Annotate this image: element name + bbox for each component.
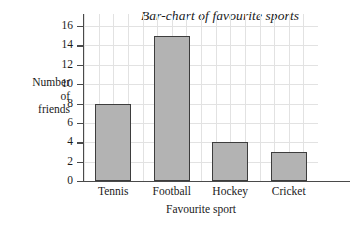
x-axis-line: [84, 181, 350, 182]
y-axis-tick-label: 4: [33, 136, 73, 148]
y-axis-tick-label: 14: [33, 39, 73, 51]
y-axis-line: [83, 14, 84, 182]
y-axis-tick: [77, 84, 84, 85]
y-axis-tick: [77, 104, 84, 105]
bar-football: [154, 36, 190, 181]
y-axis-tick-label: 0: [33, 175, 73, 187]
x-axis-tick-label: Football: [143, 185, 202, 197]
y-axis-tick: [77, 162, 84, 163]
y-axis-tick-label: 16: [33, 20, 73, 32]
x-axis-title: Favourite sport: [84, 203, 318, 215]
gridline-vertical: [260, 14, 261, 181]
y-axis-tick: [77, 26, 84, 27]
gridline-vertical: [201, 14, 202, 181]
y-axis-tick: [77, 181, 84, 182]
bar-cricket: [271, 152, 307, 181]
y-axis-tick: [77, 45, 84, 46]
bar-hockey: [212, 142, 248, 181]
bar-tennis: [95, 104, 131, 182]
y-axis-tick: [77, 142, 84, 143]
y-axis-tick-label: 12: [33, 59, 73, 71]
y-axis-tick-label: 2: [33, 156, 73, 168]
y-axis-tick-label: 10: [33, 78, 73, 90]
x-axis-tick-label: Tennis: [84, 185, 143, 197]
x-axis-tick-label: Cricket: [260, 185, 319, 197]
gridline-vertical: [143, 14, 144, 181]
y-axis-tick: [77, 123, 84, 124]
y-axis-tick-label: 8: [33, 98, 73, 110]
y-axis-tick-label: 6: [33, 117, 73, 129]
x-axis-tick-label: Hockey: [201, 185, 260, 197]
bar-chart: Bar-chart of favourite sports Number of …: [0, 0, 364, 228]
plot-area: [84, 14, 318, 181]
y-axis-tick: [77, 65, 84, 66]
